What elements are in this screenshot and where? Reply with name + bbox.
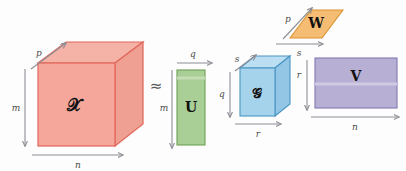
g-core-tensor-group: 𝒢: [240, 56, 290, 116]
g-dim-r-label: r: [256, 129, 261, 139]
tucker-decomposition-figure: 𝒳 p m n ≈ U q: [0, 0, 406, 171]
x-tensor-group: 𝒳: [38, 42, 143, 146]
v-matrix-label: V: [350, 68, 363, 84]
g-dim-s-diag-label: s: [235, 54, 240, 64]
g-dim-q-label: q: [219, 89, 225, 99]
w-matrix-group: W: [290, 10, 343, 38]
u-matrix-label: U: [185, 99, 197, 115]
w-matrix-label: W: [307, 15, 324, 31]
g-dim-q-arrow-group: q: [219, 72, 230, 117]
x-dim-p-label: p: [36, 48, 42, 58]
g-dim-r-arrow-group: r: [235, 124, 281, 139]
approximation-symbol: ≈: [150, 77, 163, 95]
x-dim-n-label: n: [75, 160, 81, 170]
v-dim-r-label: r: [297, 70, 302, 80]
v-dim-n-arrow-group: n: [311, 117, 399, 132]
u-matrix-group: U: [177, 70, 205, 145]
w-dim-p-label: p: [285, 14, 291, 24]
g-core-label: 𝒢: [252, 85, 263, 101]
x-tensor-label: 𝒳: [66, 95, 84, 115]
x-dim-m-label: m: [12, 103, 21, 113]
x-dim-m-arrow-group: m: [12, 69, 25, 146]
v-matrix-group: V: [315, 58, 397, 108]
v-dim-r-arrow-group: r: [297, 60, 307, 110]
w-dim-s-label: s: [297, 48, 302, 58]
u-dim-m-label: m: [160, 103, 169, 113]
v-dim-n-label: n: [352, 122, 358, 132]
u-dim-q-arrow-group: q: [177, 49, 212, 64]
x-dim-n-arrow-group: n: [32, 155, 123, 170]
u-dim-q-label: q: [190, 49, 196, 59]
